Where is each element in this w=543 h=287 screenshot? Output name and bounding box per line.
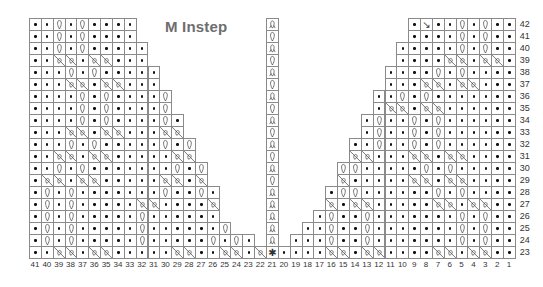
column-label: 24	[230, 260, 242, 269]
column-label: 2	[491, 260, 503, 269]
row-label: 39	[520, 55, 534, 65]
column-label: 41	[29, 260, 41, 269]
column-label: 27	[195, 260, 207, 269]
row-label: 41	[520, 31, 534, 41]
decrease-icon: ↘	[422, 20, 430, 30]
column-label: 15	[337, 260, 349, 269]
purl-dot-cell	[290, 246, 303, 259]
row-label: 26	[520, 211, 534, 221]
cable-cross-cell	[373, 246, 386, 259]
purl-dot-cell	[491, 246, 504, 259]
column-label: 39	[53, 260, 65, 269]
row-label: 36	[520, 91, 534, 101]
row-label: 33	[520, 127, 534, 137]
column-label: 20	[278, 260, 290, 269]
column-label: 37	[76, 260, 88, 269]
column-label: 35	[100, 260, 112, 269]
purl-dot-cell	[278, 246, 291, 259]
purl-dot-cell	[503, 246, 516, 259]
purl-dot-cell	[456, 246, 469, 259]
purl-dot-cell	[385, 246, 398, 259]
row-label: 32	[520, 139, 534, 149]
row-label: 30	[520, 163, 534, 173]
purl-dot-cell	[313, 246, 326, 259]
row-label: 25	[520, 223, 534, 233]
purl-dot-cell	[396, 246, 409, 259]
column-label: 28	[183, 260, 195, 269]
row-label: 38	[520, 67, 534, 77]
cable-cross-cell	[337, 246, 350, 259]
column-label: 12	[373, 260, 385, 269]
column-label: 30	[159, 260, 171, 269]
row-label: 37	[520, 79, 534, 89]
row-label: 35	[520, 103, 534, 113]
column-label: 21	[266, 260, 278, 269]
row-label: 24	[520, 235, 534, 245]
column-label: 3	[479, 260, 491, 269]
row-label: 34	[520, 115, 534, 125]
row-label: 28	[520, 187, 534, 197]
column-label: 10	[396, 260, 408, 269]
purl-dot-cell	[420, 246, 433, 259]
cable-cross-cell	[479, 246, 492, 259]
column-label: 23	[242, 260, 254, 269]
row-label: 23	[520, 247, 534, 257]
column-label: 31	[148, 260, 160, 269]
column-label: 33	[124, 260, 136, 269]
column-label: 11	[385, 260, 397, 269]
column-label: 32	[136, 260, 148, 269]
column-label: 5	[456, 260, 468, 269]
column-label: 34	[112, 260, 124, 269]
column-label: 18	[302, 260, 314, 269]
row-label: 29	[520, 175, 534, 185]
column-label: 14	[349, 260, 361, 269]
cable-cross-cell	[361, 246, 374, 259]
column-label: 6	[444, 260, 456, 269]
column-label: 13	[361, 260, 373, 269]
column-label: 17	[313, 260, 325, 269]
purl-dot-cell	[302, 246, 315, 259]
cable-cross-cell	[467, 246, 480, 259]
cable-cross-cell	[432, 246, 445, 259]
column-label: 38	[65, 260, 77, 269]
column-label: 4	[467, 260, 479, 269]
column-label: 16	[325, 260, 337, 269]
row-label: 27	[520, 199, 534, 209]
column-label: 1	[503, 260, 515, 269]
column-label: 36	[88, 260, 100, 269]
purl-dot-cell	[349, 246, 362, 259]
row-label: 42	[520, 19, 534, 29]
asterisk-icon: ✱	[268, 248, 276, 258]
column-label: 26	[207, 260, 219, 269]
knitting-chart: M Instep ↘✱ 4241403938373635343332313029…	[0, 0, 543, 287]
cable-cross-cell	[444, 246, 457, 259]
column-label: 8	[420, 260, 432, 269]
column-label: 25	[219, 260, 231, 269]
chart-title: M Instep	[165, 18, 227, 35]
column-label: 19	[290, 260, 302, 269]
column-label: 40	[41, 260, 53, 269]
purl-dot-cell	[408, 246, 421, 259]
row-label: 40	[520, 43, 534, 53]
column-label: 7	[432, 260, 444, 269]
cable-cross-cell	[325, 246, 338, 259]
column-label: 29	[171, 260, 183, 269]
row-label: 31	[520, 151, 534, 161]
column-label: 22	[254, 260, 266, 269]
column-label: 9	[408, 260, 420, 269]
